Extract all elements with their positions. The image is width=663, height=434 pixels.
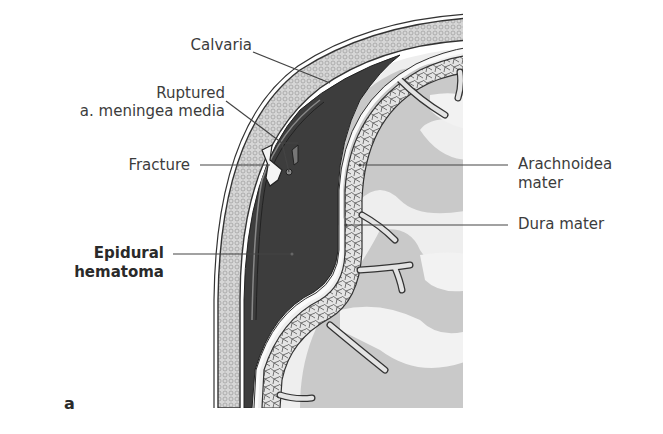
label-dura-mater: Dura mater — [518, 215, 604, 233]
cross-section — [210, 0, 470, 408]
epidural-hematoma-figure: Calvaria Ruptured a. meningea media Frac… — [0, 0, 663, 434]
panel-letter: a — [64, 394, 75, 413]
label-arachnoidea-line1: Arachnoidea — [518, 155, 612, 173]
label-calvaria: Calvaria — [140, 36, 252, 54]
label-arachnoidea-line2: mater — [518, 174, 563, 192]
label-epidural-line1: Epidural — [60, 244, 164, 262]
label-ruptured-line2: a. meningea media — [40, 102, 225, 120]
label-fracture: Fracture — [80, 156, 190, 174]
label-epidural-line2: hematoma — [60, 263, 164, 281]
label-ruptured-line1: Ruptured — [60, 84, 225, 102]
